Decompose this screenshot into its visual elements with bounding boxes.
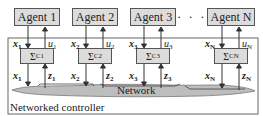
xn-upper-label: xN [205, 38, 215, 51]
agent-1-label: Agent 1 [18, 10, 56, 25]
network-label: Network [117, 84, 156, 96]
zn-label: zN [242, 70, 251, 83]
sigma-subscript: C2 [94, 52, 102, 60]
agent-n-box: Agent N [207, 8, 255, 26]
agent-2-box: Agent 2 [72, 8, 118, 26]
x3-upper-label: x3 [129, 38, 138, 51]
agent-1-box: Agent 1 [14, 8, 60, 26]
z2-label: z2 [106, 70, 113, 83]
z3-label: z3 [164, 70, 171, 83]
x2-lower-label: x2 [71, 70, 80, 83]
u2-label: u2 [106, 38, 115, 51]
sigma-subscript: C1 [36, 52, 44, 60]
x3-lower-label: x3 [129, 70, 138, 83]
networked-controller-label: Networked controller [10, 101, 104, 113]
ellipsis: · · · [177, 9, 207, 25]
x2-upper-label: x2 [71, 38, 80, 51]
u3-label: u3 [164, 38, 173, 51]
x1-upper-label: x1 [13, 38, 22, 51]
x1-lower-label: x1 [13, 70, 22, 83]
sigma-subscript: CN [229, 52, 239, 60]
xn-lower-label: xN [205, 70, 215, 83]
z1-label: z1 [48, 70, 55, 83]
sigma-subscript: C3 [152, 52, 160, 60]
agent-3-box: Agent 3 [130, 8, 176, 26]
agent-3-label: Agent 3 [134, 10, 172, 25]
agent-n-label: Agent N [211, 10, 252, 25]
u1-label: u1 [48, 38, 57, 51]
agent-2-label: Agent 2 [76, 10, 114, 25]
un-label: uN [242, 38, 252, 51]
